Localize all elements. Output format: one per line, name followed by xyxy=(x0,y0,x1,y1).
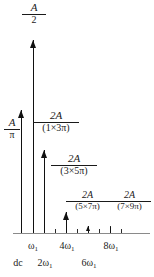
stem-dc-shaft xyxy=(21,110,22,233)
xtick-label-dc: dc xyxy=(7,257,29,268)
xtick-label-w2-main: 2ω xyxy=(37,257,49,268)
amplitude-label-w2-denominator: (1×3π) xyxy=(33,123,79,133)
stem-w2-arrowhead xyxy=(41,150,47,158)
xtick-label-w2-subscript: 1 xyxy=(49,262,53,270)
amplitude-label-w4: 2A (3×5π) xyxy=(51,153,97,176)
amplitude-label-w2-numerator: 2A xyxy=(33,110,79,121)
stem-w4-arrowhead xyxy=(63,212,69,220)
xtick-label-w1-main: ω xyxy=(28,240,35,251)
amplitude-label-w1-denominator: 2 xyxy=(22,15,46,25)
xtick-label-w1-subscript: 1 xyxy=(35,245,39,253)
amplitude-label-w1: A 2 xyxy=(22,2,46,25)
amplitude-label-dc-numerator: A xyxy=(4,117,20,128)
amplitude-label-w2: 2A (1×3π) xyxy=(33,110,79,133)
amplitude-label-w8-denominator: (7×9π) xyxy=(108,202,151,211)
xtick-label-w4: 4ω1 xyxy=(54,240,80,253)
axis-tick-w5 xyxy=(77,229,78,233)
stem-w1-shaft xyxy=(33,40,34,233)
amplitude-label-dc: A π xyxy=(4,117,20,140)
xtick-label-w6: 6ω1 xyxy=(76,257,102,270)
axis-tick-w9 xyxy=(121,229,122,233)
axis-tick-w7 xyxy=(99,229,100,233)
xtick-label-w4-main: 4ω xyxy=(59,240,71,251)
amplitude-label-w6-denominator: (5×7π) xyxy=(66,202,109,211)
amplitude-label-w8: 2A (7×9π) xyxy=(108,190,151,211)
stem-w2-shaft xyxy=(44,150,45,233)
amplitude-label-w4-numerator: 2A xyxy=(51,153,97,164)
axis-tick-w3 xyxy=(55,229,56,233)
stem-w8-shaft xyxy=(110,227,111,233)
stem-w6-arrowhead xyxy=(86,226,90,231)
stem-w1-arrowhead xyxy=(30,40,36,48)
amplitude-label-w8-numerator: 2A xyxy=(108,190,151,200)
x-axis-line xyxy=(13,233,150,234)
amplitude-label-w1-numerator: A xyxy=(22,2,46,13)
amplitude-label-w6: 2A (5×7π) xyxy=(66,190,109,211)
xtick-label-w2: 2ω1 xyxy=(32,257,58,270)
xtick-label-w4-subscript: 1 xyxy=(71,245,75,253)
xtick-label-w8-main: 8ω xyxy=(103,240,115,251)
xtick-label-dc-text: dc xyxy=(13,257,22,268)
xtick-label-w6-main: 6ω xyxy=(81,257,93,268)
xtick-label-w6-subscript: 1 xyxy=(93,262,97,270)
xtick-label-w8-subscript: 1 xyxy=(115,245,119,253)
amplitude-label-w4-denominator: (3×5π) xyxy=(51,166,97,176)
amplitude-label-dc-denominator: π xyxy=(4,130,20,140)
xtick-label-w1: ω1 xyxy=(22,240,44,253)
spectrum-figure: A 2 A π 2A (1×3π) 2A (3×5π) 2A (5×7π) 2A… xyxy=(0,0,154,277)
amplitude-label-w6-numerator: 2A xyxy=(66,190,109,200)
xtick-label-w8: 8ω1 xyxy=(98,240,124,253)
